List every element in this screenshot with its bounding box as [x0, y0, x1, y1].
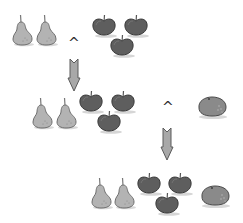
- pear-icon: [11, 13, 35, 47]
- pear-icon: [35, 13, 59, 47]
- apple-icon: [96, 110, 122, 134]
- row-1-group: ^: [0, 0, 243, 60]
- orange-icon: [199, 183, 231, 209]
- apple-icon: [109, 34, 135, 58]
- apple-icon: [154, 192, 180, 216]
- row-2-group: ^: [0, 88, 243, 138]
- operator-and: ^: [162, 100, 174, 114]
- arrow-down-icon: [67, 58, 81, 92]
- orange-icon: [196, 94, 228, 120]
- pear-icon: [90, 176, 114, 210]
- row-3-group: [0, 168, 243, 220]
- pear-icon: [31, 96, 55, 130]
- pear-icon: [113, 176, 137, 210]
- arrow-down-icon: [160, 127, 174, 161]
- operator-and: ^: [68, 36, 80, 50]
- pear-icon: [55, 96, 79, 130]
